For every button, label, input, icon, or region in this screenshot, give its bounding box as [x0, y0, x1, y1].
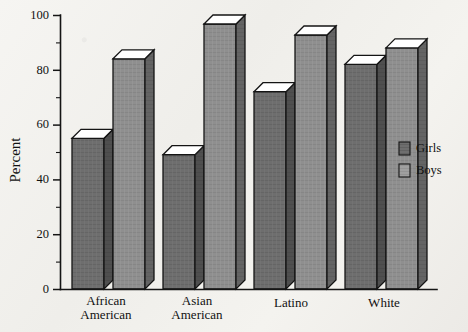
- category-label-latino: Latino: [274, 295, 308, 310]
- y-axis-title: Percent: [7, 137, 23, 183]
- bar-girls-white[interactable]: [345, 55, 386, 289]
- legend-item-boys[interactable]: Boys: [399, 163, 442, 177]
- legend-swatch-girls: [399, 142, 410, 155]
- category-label-asian-american-line2: American: [171, 307, 223, 322]
- y-tick-label: 0: [43, 282, 49, 296]
- bar-girls-latino[interactable]: [254, 83, 295, 289]
- bar-group-asian-american: [163, 15, 245, 289]
- y-tick-label: 40: [37, 172, 50, 186]
- y-tick-label: 60: [37, 117, 50, 131]
- legend-swatch-boys: [399, 164, 410, 177]
- bar-girls-asian-american[interactable]: [163, 146, 204, 289]
- bar-chart: 0 20 40 60 80 100 Percent: [0, 0, 468, 332]
- y-axis-tick-labels: 0 20 40 60 80 100: [30, 8, 49, 296]
- legend-label-girls: Girls: [416, 141, 441, 155]
- y-axis: [53, 15, 61, 290]
- bar-group-latino: [254, 26, 336, 289]
- category-label-african-american: African: [86, 293, 126, 308]
- x-axis-category-labels: African American Asian American Latino W…: [80, 293, 400, 322]
- bar-boys-latino[interactable]: [295, 26, 336, 289]
- y-tick-label: 80: [37, 63, 50, 77]
- y-tick-label: 100: [30, 8, 49, 22]
- bar-boys-asian-american[interactable]: [204, 15, 245, 289]
- category-label-asian-american: Asian: [182, 293, 213, 308]
- bar-group-white: [345, 39, 427, 289]
- category-label-african-american-line2: American: [80, 307, 132, 322]
- y-tick-label: 20: [37, 227, 50, 241]
- category-label-white: White: [368, 295, 400, 310]
- bar-group-african-american: [72, 50, 154, 289]
- bar-girls-african-american[interactable]: [72, 129, 113, 289]
- bar-boys-african-american[interactable]: [113, 50, 154, 289]
- legend-item-girls[interactable]: Girls: [399, 141, 441, 155]
- legend-label-boys: Boys: [416, 163, 442, 177]
